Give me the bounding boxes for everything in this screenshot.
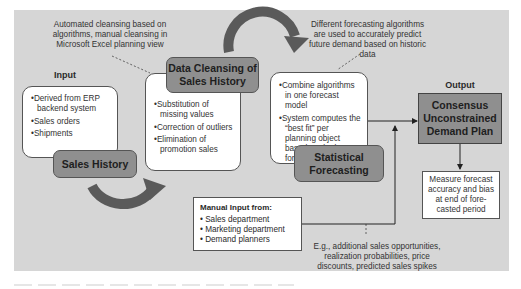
forecasting-note: Different forecasting algorithms are use… bbox=[305, 20, 430, 60]
manual-input-item: • Sales department bbox=[200, 215, 295, 225]
measure-accuracy-box: Measure forecast accuracy and bias at en… bbox=[422, 171, 500, 219]
manual-input-item: • Demand planners bbox=[200, 235, 295, 245]
examples-note: E.g., additional sales opportunities, re… bbox=[312, 242, 442, 272]
input-card: Derived from ERP backend system Sales or… bbox=[22, 86, 118, 158]
forecasting-item: Combine algorithms in one forecast model bbox=[277, 81, 361, 111]
curved-arrow-1 bbox=[92, 186, 152, 204]
cleansing-note: Automated cleansing based on algorithms,… bbox=[50, 20, 170, 50]
manual-input-heading: Manual Input from: bbox=[200, 203, 295, 212]
stage-data-cleansing: Data Cleansing of Sales History bbox=[166, 57, 259, 93]
input-item: Shipments bbox=[29, 129, 111, 139]
input-heading: Input bbox=[45, 70, 85, 80]
caption-remnant bbox=[14, 283, 314, 287]
output-heading: Output bbox=[430, 80, 490, 90]
output-demand-plan: Consensus Unconstrained Demand Plan bbox=[418, 93, 502, 144]
cleansing-item: Correction of outliers bbox=[152, 123, 234, 133]
stage-statistical-forecasting: Statistical Forecasting bbox=[294, 145, 384, 182]
manual-input-item: • Marketing department bbox=[200, 225, 295, 235]
cleansing-item: Substitution of missing values bbox=[152, 100, 234, 120]
curved-arrow-2 bbox=[228, 12, 295, 52]
input-item: Sales orders bbox=[29, 117, 111, 127]
stage-sales-history: Sales History bbox=[53, 150, 137, 178]
cleansing-note-pointer bbox=[112, 56, 150, 73]
input-item: Derived from ERP backend system bbox=[29, 94, 111, 114]
manual-input-box: Manual Input from: • Sales department • … bbox=[193, 197, 302, 251]
cleansing-item: Elimination of promotion sales bbox=[152, 135, 234, 155]
